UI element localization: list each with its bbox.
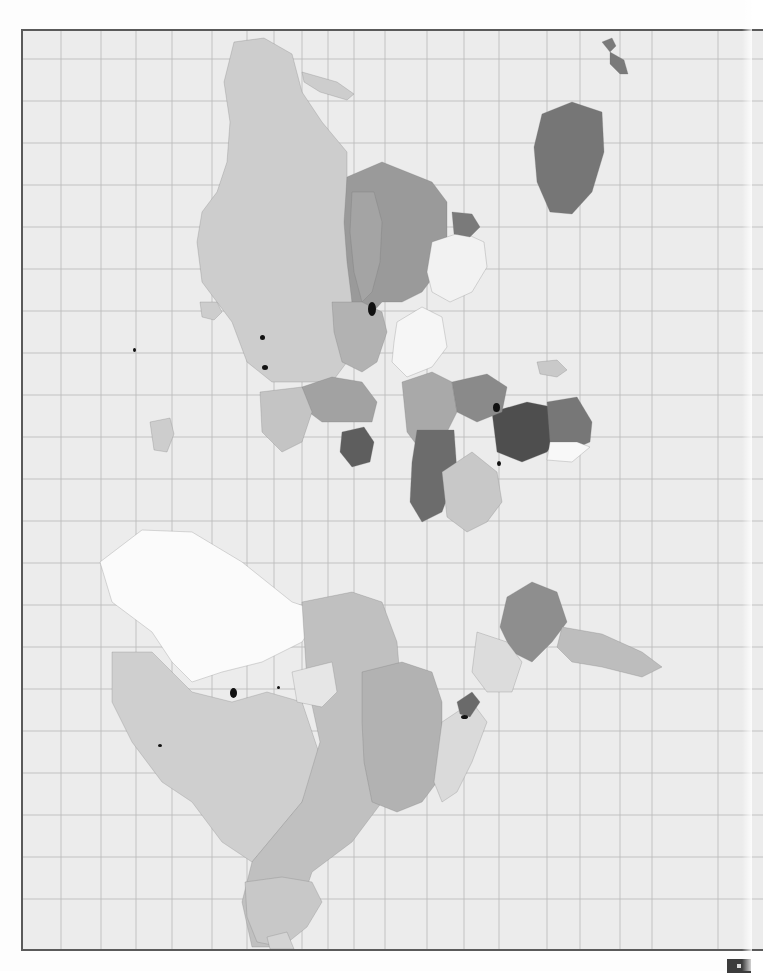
page-edge-fade xyxy=(742,0,752,971)
region-uk xyxy=(150,418,174,452)
black-region-2 xyxy=(493,403,500,412)
region-middle-east xyxy=(302,377,377,422)
region-china xyxy=(392,307,447,377)
black-region-7 xyxy=(230,688,237,698)
marker-pip xyxy=(737,964,741,968)
region-new-zealand-s xyxy=(610,52,628,74)
region-usa xyxy=(362,662,442,812)
region-japan-pacific-dark xyxy=(534,102,604,214)
black-region-1 xyxy=(368,302,376,316)
map-regions xyxy=(100,38,662,949)
black-region-3 xyxy=(497,461,501,466)
black-region-9 xyxy=(277,686,280,689)
black-region-8 xyxy=(158,744,162,747)
region-south-america-argentina xyxy=(557,627,662,677)
region-mongolia xyxy=(427,232,487,302)
region-africa-south-light xyxy=(547,442,590,462)
black-region-6 xyxy=(133,348,136,352)
black-region-10 xyxy=(461,715,468,719)
region-iran xyxy=(340,427,374,467)
region-caspian-area xyxy=(452,212,480,237)
region-madagascar xyxy=(537,360,567,377)
region-iceland-islands xyxy=(200,302,222,320)
black-region-4 xyxy=(260,335,265,340)
map-canvas xyxy=(23,31,763,949)
world-choropleth-map xyxy=(21,29,763,951)
black-region-5 xyxy=(262,365,268,370)
region-new-zealand-n xyxy=(602,38,616,52)
region-arabia xyxy=(260,387,312,452)
